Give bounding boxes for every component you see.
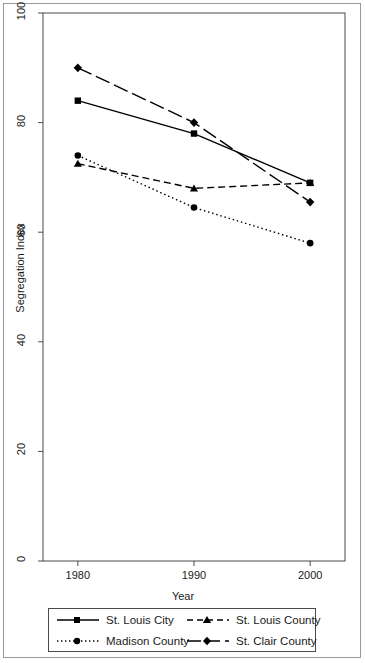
chart-legend: St. Louis City St. Louis County Madison … — [48, 608, 316, 652]
legend-label: Madison County — [101, 635, 189, 647]
longdash-diamond-key-icon — [185, 634, 231, 648]
series-madison-county — [75, 152, 314, 246]
legend-item-st-louis-city: St. Louis City — [49, 609, 185, 630]
dashed-triangle-key-icon — [185, 613, 231, 627]
y-tick-label: 0 — [15, 544, 27, 574]
line-chart-svg — [4, 4, 362, 604]
figure-container: Segregation Index Year 020406080100 1980… — [3, 3, 361, 658]
legend-item-st-clair-county: St. Clair County — [185, 630, 317, 651]
y-tick-label: 60 — [15, 215, 27, 245]
dotted-circle-key-icon — [55, 634, 101, 648]
chart-plot-area: Segregation Index Year 020406080100 1980… — [4, 4, 362, 604]
series-st-louis-city — [75, 97, 314, 186]
series-st-louis-county — [74, 160, 315, 192]
y-tick-label: 40 — [15, 325, 27, 355]
y-tick-label: 100 — [15, 0, 27, 26]
x-tick-label: 1990 — [164, 569, 224, 581]
legend-item-st-louis-county: St. Louis County — [185, 609, 317, 630]
legend-row: Madison County St. Clair County — [49, 630, 317, 651]
legend-row: St. Louis City St. Louis County — [49, 609, 317, 630]
x-tick-label: 1980 — [48, 569, 108, 581]
x-tick-label: 2000 — [280, 569, 340, 581]
x-axis-title: Year — [4, 590, 362, 602]
y-axis-ticks — [38, 13, 43, 561]
legend-label: St. Clair County — [231, 635, 317, 647]
x-axis-ticks — [78, 561, 310, 566]
solid-square-key-icon — [55, 613, 101, 627]
plot-frame — [43, 13, 345, 561]
data-series-layer — [74, 63, 315, 246]
legend-label: St. Louis City — [101, 614, 174, 626]
legend-item-madison-county: Madison County — [49, 630, 185, 651]
legend-label: St. Louis County — [231, 614, 320, 626]
y-tick-label: 80 — [15, 106, 27, 136]
y-tick-label: 20 — [15, 434, 27, 464]
